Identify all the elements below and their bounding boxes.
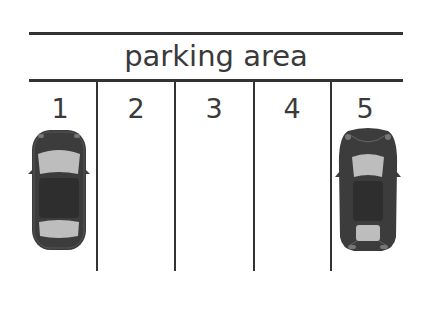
space-number-5: 5 bbox=[345, 93, 385, 125]
space-number-2: 2 bbox=[116, 93, 156, 125]
diagram-title: parking area bbox=[29, 34, 403, 80]
space-divider-1 bbox=[96, 81, 98, 271]
sedan-car-icon bbox=[26, 128, 92, 252]
space-divider-2 bbox=[174, 81, 176, 271]
sports-car-icon bbox=[334, 127, 402, 253]
space-number-1: 1 bbox=[40, 93, 80, 125]
space-number-3: 3 bbox=[194, 93, 234, 125]
space-divider-3 bbox=[253, 81, 255, 271]
space-divider-4 bbox=[330, 81, 332, 271]
curb-line bbox=[29, 79, 403, 82]
space-number-4: 4 bbox=[272, 93, 312, 125]
